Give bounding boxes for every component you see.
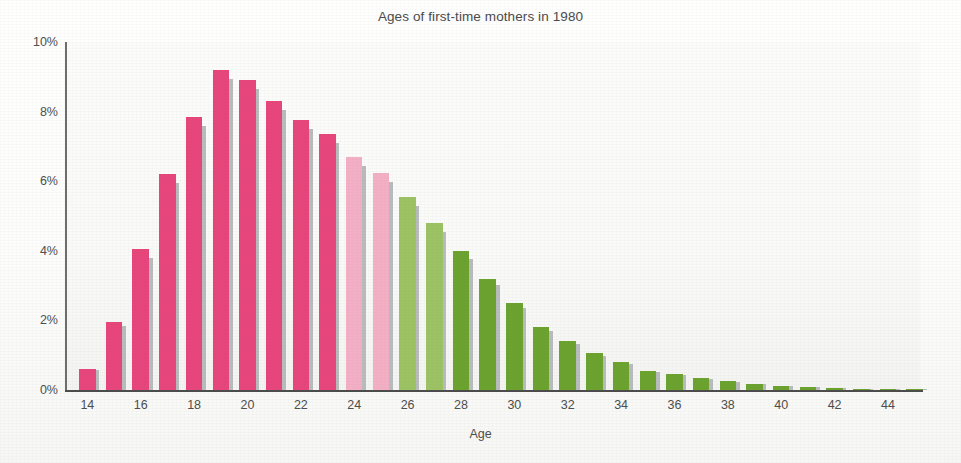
y-tick-label: 2% — [12, 313, 58, 327]
bar[interactable] — [640, 371, 657, 390]
bar-group[interactable] — [213, 70, 236, 390]
bar-group[interactable] — [666, 374, 689, 390]
bar-group[interactable] — [239, 80, 262, 390]
x-tick-label: 28 — [454, 398, 468, 412]
y-tick-label: 4% — [12, 244, 58, 258]
bar[interactable] — [293, 120, 310, 390]
bar[interactable] — [239, 80, 256, 390]
bar[interactable] — [453, 251, 470, 390]
bar-group[interactable] — [586, 353, 609, 390]
bar-group[interactable] — [399, 197, 422, 390]
bar[interactable] — [159, 174, 176, 390]
bar[interactable] — [426, 223, 443, 390]
bar[interactable] — [533, 327, 550, 390]
x-tick-label: 18 — [187, 398, 201, 412]
x-tick-label: 32 — [561, 398, 575, 412]
bar[interactable] — [586, 353, 603, 390]
bar[interactable] — [132, 249, 149, 390]
bar-group[interactable] — [453, 251, 476, 390]
bar-group[interactable] — [373, 173, 396, 391]
bar[interactable] — [346, 157, 363, 390]
bar[interactable] — [479, 279, 496, 390]
bar-group[interactable] — [533, 327, 556, 390]
bar-group[interactable] — [693, 378, 716, 390]
bar-group[interactable] — [293, 120, 316, 390]
bar[interactable] — [106, 322, 123, 390]
bar-group[interactable] — [479, 279, 502, 390]
bar[interactable] — [506, 303, 523, 390]
bar-group[interactable] — [319, 134, 342, 390]
bar[interactable] — [79, 369, 96, 390]
bar-group[interactable] — [720, 381, 743, 390]
bar-group[interactable] — [106, 322, 129, 390]
x-tick-label: 38 — [721, 398, 735, 412]
chart-title: Ages of first-time mothers in 1980 — [0, 9, 961, 24]
x-tick-label: 20 — [241, 398, 255, 412]
bar[interactable] — [666, 374, 683, 390]
y-axis-line — [65, 42, 67, 391]
bar-group[interactable] — [186, 117, 209, 390]
bar-group[interactable] — [640, 371, 663, 390]
x-tick-label: 40 — [774, 398, 788, 412]
x-tick-label: 30 — [507, 398, 521, 412]
x-tick-label: 34 — [614, 398, 628, 412]
x-axis-label: Age — [0, 427, 961, 441]
bar-group[interactable] — [132, 249, 155, 390]
chart-figure: Ages of first-time mothers in 1980 0%2%4… — [0, 0, 961, 463]
bar-group[interactable] — [266, 101, 289, 390]
bar[interactable] — [613, 362, 630, 390]
bar[interactable] — [720, 381, 737, 390]
bar-group[interactable] — [559, 341, 582, 390]
bar[interactable] — [319, 134, 336, 390]
bar[interactable] — [266, 101, 283, 390]
x-tick-label: 14 — [80, 398, 94, 412]
bar[interactable] — [186, 117, 203, 390]
bar-group[interactable] — [426, 223, 449, 390]
x-tick-label: 26 — [401, 398, 415, 412]
bar[interactable] — [373, 173, 390, 391]
bar[interactable] — [693, 378, 710, 390]
x-tick-label: 44 — [881, 398, 895, 412]
plot-area — [66, 42, 920, 390]
x-tick-label: 16 — [134, 398, 148, 412]
x-tick-label: 22 — [294, 398, 308, 412]
y-tick-label: 10% — [12, 35, 58, 49]
x-tick-label: 36 — [668, 398, 682, 412]
bar-group[interactable] — [346, 157, 369, 390]
y-tick-label: 0% — [12, 383, 58, 397]
bar-group[interactable] — [159, 174, 182, 390]
bar-group[interactable] — [613, 362, 636, 390]
bar-group[interactable] — [506, 303, 529, 390]
x-axis-line — [65, 390, 923, 392]
x-tick-label: 24 — [347, 398, 361, 412]
bar[interactable] — [399, 197, 416, 390]
bar-group[interactable] — [79, 369, 102, 390]
x-tick-label: 42 — [828, 398, 842, 412]
y-tick-label: 6% — [12, 174, 58, 188]
x-axis-tick-labels: 14161820222426283032343638404244 — [0, 398, 961, 420]
y-axis-tick-labels: 0%2%4%6%8%10% — [8, 0, 58, 463]
bar[interactable] — [213, 70, 230, 390]
bar[interactable] — [559, 341, 576, 390]
y-tick-label: 8% — [12, 105, 58, 119]
